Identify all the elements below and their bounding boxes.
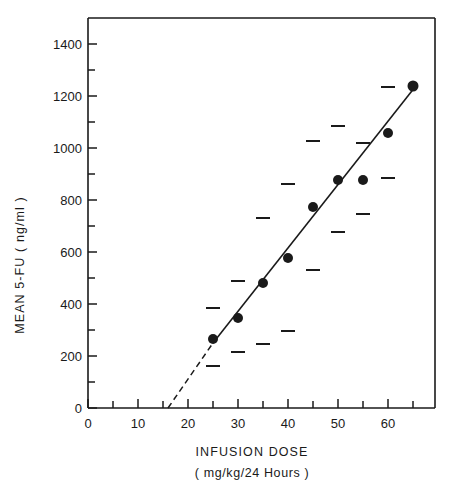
regression-line-group	[168, 87, 415, 408]
figure-container: 0 200 400 600 800 1000 1200 1400	[0, 0, 455, 497]
plot-frame	[88, 18, 435, 408]
y-tick-label-200: 200	[60, 349, 82, 364]
y-tick-label-800: 800	[60, 193, 82, 208]
data-point-dose-55	[358, 175, 368, 185]
error-bar-caps	[206, 87, 395, 366]
y-tick-label-1000: 1000	[53, 141, 82, 156]
data-point-dose-65	[408, 81, 419, 92]
regression-line-dashed-extrapolation	[168, 343, 213, 408]
x-axis-subtitle: ( mg/kg/24 Hours )	[195, 466, 309, 480]
data-point-dose-40	[283, 253, 293, 263]
y-axis-title: MEAN 5-FU ( ng/ml )	[13, 196, 27, 334]
y-axis-minor-ticks	[88, 70, 95, 382]
regression-line-solid	[213, 87, 415, 343]
data-point-dose-30	[233, 313, 243, 323]
x-tick-label-60: 60	[381, 416, 395, 431]
data-point-dose-60	[383, 128, 393, 138]
x-tick-label-0: 0	[84, 416, 91, 431]
x-tick-label-10: 10	[131, 416, 145, 431]
data-point-dose-35	[258, 278, 268, 288]
x-tick-label-20: 20	[181, 416, 195, 431]
y-axis-tick-labels: 0 200 400 600 800 1000 1200 1400	[53, 37, 82, 416]
data-points	[208, 81, 419, 345]
x-tick-label-50: 50	[331, 416, 345, 431]
data-point-dose-25	[208, 334, 218, 344]
scatter-plot-svg: 0 200 400 600 800 1000 1200 1400	[0, 0, 455, 497]
data-point-dose-45	[308, 202, 318, 212]
x-axis-tick-labels: 0 10 20 30 40 50 60	[84, 416, 395, 431]
x-tick-label-30: 30	[231, 416, 245, 431]
y-tick-label-0: 0	[75, 401, 82, 416]
x-tick-label-40: 40	[281, 416, 295, 431]
x-axis-ticks	[88, 399, 413, 408]
y-tick-label-1200: 1200	[53, 89, 82, 104]
data-point-dose-50	[333, 175, 343, 185]
y-tick-label-1400: 1400	[53, 37, 82, 52]
x-axis-title: INFUSION DOSE	[196, 445, 309, 459]
y-tick-label-400: 400	[60, 297, 82, 312]
y-tick-label-600: 600	[60, 245, 82, 260]
